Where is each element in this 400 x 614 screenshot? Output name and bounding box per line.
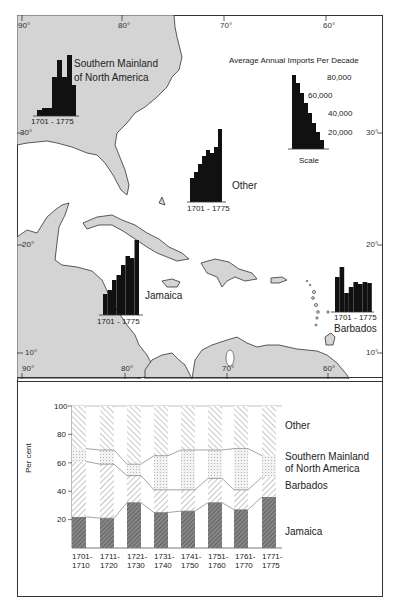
xlabel-4-a: 1731- — [154, 552, 174, 561]
legend-barbados: Barbados — [285, 480, 328, 492]
xlabel-8-b: 1775 — [262, 561, 280, 570]
xlabel-5-a: 1741- — [181, 552, 201, 561]
ytick-80: 80 — [57, 430, 66, 439]
ytick-20: 20 — [57, 515, 66, 524]
histogram-jamaica — [103, 240, 139, 315]
lat-tick-right-20: 20° — [366, 240, 378, 249]
ytick-60: 60 — [57, 459, 66, 468]
scale-title: Average Annual Imports Per Decade — [229, 56, 359, 65]
xlabel-1-a: 1701- — [72, 552, 92, 561]
lon-tick-bottom-70: 70° — [222, 364, 234, 373]
lon-tick-top-60: 60° — [323, 21, 335, 30]
jamaica-island — [162, 279, 180, 287]
legend-jamaica: Jamaica — [285, 526, 322, 538]
divider-line — [17, 377, 383, 378]
bar-1751-1760 — [208, 406, 222, 548]
lesser-antilles — [306, 280, 329, 326]
xlabel-3-a: 1721- — [127, 552, 147, 561]
xlabel-7-b: 1770 — [235, 561, 253, 570]
xlabel-1-b: 1710 — [72, 561, 90, 570]
y-axis-label: Per cent — [24, 443, 33, 473]
lat-tick-right-10: 10° — [366, 348, 378, 357]
label-southern-mainland-2: of North America — [74, 72, 148, 84]
range-jamaica: 1701 - 1775 — [97, 317, 140, 326]
scale-tick-40000: 40,000 — [328, 109, 352, 118]
lat-tick-left-20: 20° — [22, 240, 34, 249]
scale-caption: Scale — [299, 156, 319, 165]
scale-tick-60000: 60,000 — [308, 91, 332, 100]
bar-1701-1710 — [72, 406, 86, 548]
bar-1731-1740 — [154, 406, 168, 548]
lat-tick-left-10: 10° — [25, 348, 37, 357]
north-america-landmass — [17, 15, 182, 195]
label-southern-mainland-1: Southern Mainland — [74, 58, 158, 70]
lat-tick-right-30: 30° — [366, 128, 378, 137]
scale-histogram — [292, 75, 324, 149]
xlabel-2-a: 1711- — [100, 552, 120, 561]
divider-line — [17, 381, 383, 382]
bar-1761-1770 — [234, 406, 248, 548]
bar-1741-1750 — [181, 406, 195, 548]
xlabel-2-b: 1720 — [100, 561, 118, 570]
xlabel-4-b: 1740 — [154, 561, 172, 570]
ytick-40: 40 — [57, 487, 66, 496]
lon-tick-top-70: 70° — [220, 21, 232, 30]
range-other: 1701 - 1775 — [187, 204, 230, 213]
xlabel-5-b: 1750 — [181, 561, 199, 570]
xlabel-8-a: 1771- — [262, 552, 282, 561]
xlabel-7-a: 1761- — [235, 552, 255, 561]
label-other: Other — [232, 180, 257, 192]
lon-tick-bottom-60: 60° — [323, 364, 335, 373]
xlabel-3-b: 1730 — [127, 561, 145, 570]
lon-tick-bottom-80: 80° — [121, 364, 133, 373]
legend-mainland-1: Southern Mainland — [285, 451, 369, 463]
lon-tick-top-80: 80° — [118, 21, 130, 30]
lat-tick-left-30: 30° — [20, 128, 32, 137]
bar-1771-1775 — [262, 406, 276, 548]
hispaniola — [201, 259, 257, 287]
label-barbados: Barbados — [334, 323, 377, 335]
range-southern-mainland: 1701 - 1775 — [31, 117, 74, 126]
legend-other: Other — [285, 420, 310, 432]
lon-tick-top-90: 90° — [18, 21, 30, 30]
bar-1721-1730 — [127, 406, 141, 548]
ytick-100: 100 — [54, 402, 67, 411]
histogram-barbados — [335, 267, 372, 312]
puerto-rico — [271, 277, 287, 283]
xlabel-6-b: 1760 — [208, 561, 226, 570]
lon-tick-bottom-90: 90° — [22, 364, 34, 373]
label-jamaica: Jamaica — [145, 290, 182, 302]
range-barbados: 1701 - 1775 — [334, 313, 377, 322]
xlabel-6-a: 1751- — [208, 552, 228, 561]
histogram-other — [190, 129, 222, 202]
legend-mainland-2: of North America — [285, 463, 359, 475]
panama-landmass — [145, 353, 192, 379]
scale-tick-20000: 20,000 — [328, 128, 352, 137]
bar-1711-1720 — [100, 406, 114, 548]
scale-tick-80000: 80,000 — [327, 73, 351, 82]
caribbean-map: .land{fill:#d4d4d4;stroke:#333;stroke-wi… — [17, 15, 383, 379]
